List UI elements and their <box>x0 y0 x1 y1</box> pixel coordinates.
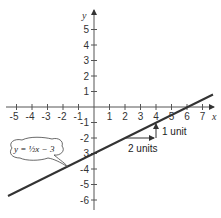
svg-text:-2: -2 <box>58 111 67 122</box>
svg-text:4: 4 <box>83 40 89 51</box>
svg-text:-6: -6 <box>80 195 89 206</box>
svg-text:2: 2 <box>122 111 128 122</box>
svg-text:7: 7 <box>200 111 206 122</box>
svg-text:3: 3 <box>138 111 144 122</box>
run-label: 2 units <box>128 143 157 154</box>
svg-text:-4: -4 <box>80 164 89 175</box>
svg-text:5: 5 <box>83 24 89 35</box>
svg-text:-5: -5 <box>80 179 89 190</box>
rise-label: 1 unit <box>162 126 187 137</box>
svg-text:-4: -4 <box>26 111 35 122</box>
svg-text:-5: -5 <box>10 111 19 122</box>
svg-text:1: 1 <box>107 111 113 122</box>
svg-text:3: 3 <box>83 55 89 66</box>
svg-text:-1: -1 <box>80 117 89 128</box>
x-axis-label: x <box>211 111 217 122</box>
equation-label: y = ½x − 3 <box>13 144 55 154</box>
svg-text:-2: -2 <box>80 133 89 144</box>
svg-text:4: 4 <box>153 111 159 122</box>
svg-text:6: 6 <box>184 111 190 122</box>
svg-text:1: 1 <box>83 86 89 97</box>
y-axis-label: y <box>81 10 87 21</box>
svg-text:2: 2 <box>83 71 89 82</box>
equation-callout: y = ½x − 3 <box>10 137 68 167</box>
coordinate-graph: -5 -4 -3 -2 -1 1 2 3 4 5 6 7 x 5 4 3 2 1… <box>0 0 221 218</box>
svg-text:-3: -3 <box>42 111 51 122</box>
